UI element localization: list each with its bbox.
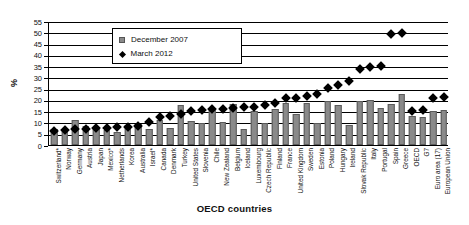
diamond-marker: [398, 29, 405, 36]
x-axis-tick-label: Sweden: [308, 148, 315, 171]
marker-column: [417, 22, 428, 145]
diamond-marker: [166, 112, 173, 119]
diamond-marker: [135, 123, 142, 130]
diamond-marker: [72, 126, 79, 133]
marker-column: [375, 22, 386, 145]
diamond-marker: [251, 103, 258, 110]
marker-column: [312, 22, 323, 145]
y-axis-tick-label: 5: [24, 131, 42, 139]
marker-column: [81, 22, 92, 145]
x-axis-tick-label: Israel*: [150, 148, 157, 166]
legend-item-december-2007: December 2007: [119, 33, 235, 47]
x-axis-tick-label: Norway: [66, 148, 73, 170]
marker-column: [70, 22, 81, 145]
x-axis-tick-label: Estonia: [319, 148, 326, 169]
diamond-marker: [93, 125, 100, 132]
legend-diamond-swatch-icon: [118, 50, 125, 57]
diamond-marker: [303, 92, 310, 99]
x-axis-tick-label: United Kingdom: [298, 148, 305, 193]
x-axis-tick-label: Belgium: [235, 148, 242, 171]
y-axis-tick-label: 35: [24, 64, 42, 72]
x-axis-tick-label: OECD: [414, 148, 421, 166]
x-axis-tick-label: Greece: [403, 148, 410, 169]
legend-square-swatch-icon: [119, 37, 125, 43]
x-axis-tick-label: Austria: [87, 148, 94, 168]
diamond-marker: [272, 100, 279, 107]
y-axis-tick-label: 55: [24, 19, 42, 27]
diamond-marker: [209, 106, 216, 113]
oecd-youth-unemployment-chart: % 0510152025303540455055 Switzerland*Nor…: [0, 0, 469, 225]
y-axis-tick-label: 50: [24, 30, 42, 38]
x-axis-tick-label: Portugal: [382, 148, 389, 172]
x-axis-tick-label: Spain: [393, 148, 400, 164]
legend-label-march-2012: March 2012: [131, 50, 173, 58]
marker-column: [270, 22, 281, 145]
diamond-marker: [409, 107, 416, 114]
marker-column: [344, 22, 355, 145]
x-axis-tick-label: Hungary: [340, 148, 347, 172]
marker-column: [102, 22, 113, 145]
x-axis-tick-label: Italy: [371, 148, 378, 160]
y-axis-title: %: [9, 79, 19, 87]
marker-column: [91, 22, 102, 145]
diamond-marker: [219, 105, 226, 112]
x-axis-tick-label: Finland: [277, 148, 284, 169]
x-axis-tick-label: Poland: [329, 148, 336, 168]
diamond-marker: [103, 124, 110, 131]
diamond-marker: [145, 119, 152, 126]
x-axis-tick-labels: Switzerland*NorwayGermanyAustriaJapanMex…: [48, 148, 448, 204]
x-axis-tick-label: Euro area (17): [435, 148, 442, 189]
x-axis-tick-label: European Union: [445, 148, 452, 194]
plot-inner: [49, 22, 448, 145]
diamond-marker: [82, 125, 89, 132]
diamond-marker: [261, 102, 268, 109]
x-axis-tick-label: Switzerland*: [56, 148, 63, 184]
marker-column: [249, 22, 260, 145]
diamond-marker: [177, 111, 184, 118]
diamond-marker: [61, 127, 68, 134]
y-axis-tick-label: 0: [24, 143, 42, 151]
diamond-marker: [324, 84, 331, 91]
y-axis-tick-label: 20: [24, 97, 42, 105]
chart-legend: December 2007 March 2012: [112, 28, 242, 64]
x-axis-tick-label: Chile: [214, 148, 221, 163]
x-axis-tick-label: Australia: [140, 148, 147, 173]
diamond-marker: [114, 124, 121, 131]
plot-area: [48, 22, 448, 146]
x-axis-tick-label: United States: [193, 148, 200, 186]
x-axis-tick-label: Czech Republic: [266, 148, 273, 193]
x-axis-tick-label: Mexico*: [108, 148, 115, 171]
y-axis-tick-label: 40: [24, 52, 42, 60]
x-axis-tick-label: G7: [424, 148, 431, 157]
y-axis-tick-label: 15: [24, 109, 42, 117]
diamond-marker: [419, 106, 426, 113]
diamond-marker: [230, 104, 237, 111]
x-axis-tick-label: Canada: [161, 148, 168, 170]
diamond-marker: [440, 93, 447, 100]
marker-column: [354, 22, 365, 145]
marker-column: [60, 22, 71, 145]
marker-column: [365, 22, 376, 145]
marker-column: [49, 22, 60, 145]
marker-column: [323, 22, 334, 145]
legend-item-march-2012: March 2012: [119, 47, 235, 61]
x-axis-tick-label: Iceland: [245, 148, 252, 169]
diamond-marker: [366, 64, 373, 71]
diamond-marker: [356, 66, 363, 73]
diamond-marker: [377, 63, 384, 70]
x-axis-tick-label: Netherlands: [119, 148, 126, 182]
y-axis-tick-label: 45: [24, 41, 42, 49]
marker-column: [407, 22, 418, 145]
y-axis-tick-mark: [44, 146, 48, 147]
x-axis-tick-label: Luxembourg: [256, 148, 263, 184]
marker-column: [302, 22, 313, 145]
y-axis-tick-label: 10: [24, 120, 42, 128]
y-axis-tick-label: 25: [24, 86, 42, 94]
x-axis-tick-label: Slovak Republic: [361, 148, 368, 194]
y-axis-tick-label: 30: [24, 75, 42, 83]
marker-column: [281, 22, 292, 145]
x-axis-tick-label: Japan: [98, 148, 105, 165]
marker-column: [333, 22, 344, 145]
diamond-marker: [240, 104, 247, 111]
x-axis-tick-label: Slovenia: [203, 148, 210, 173]
